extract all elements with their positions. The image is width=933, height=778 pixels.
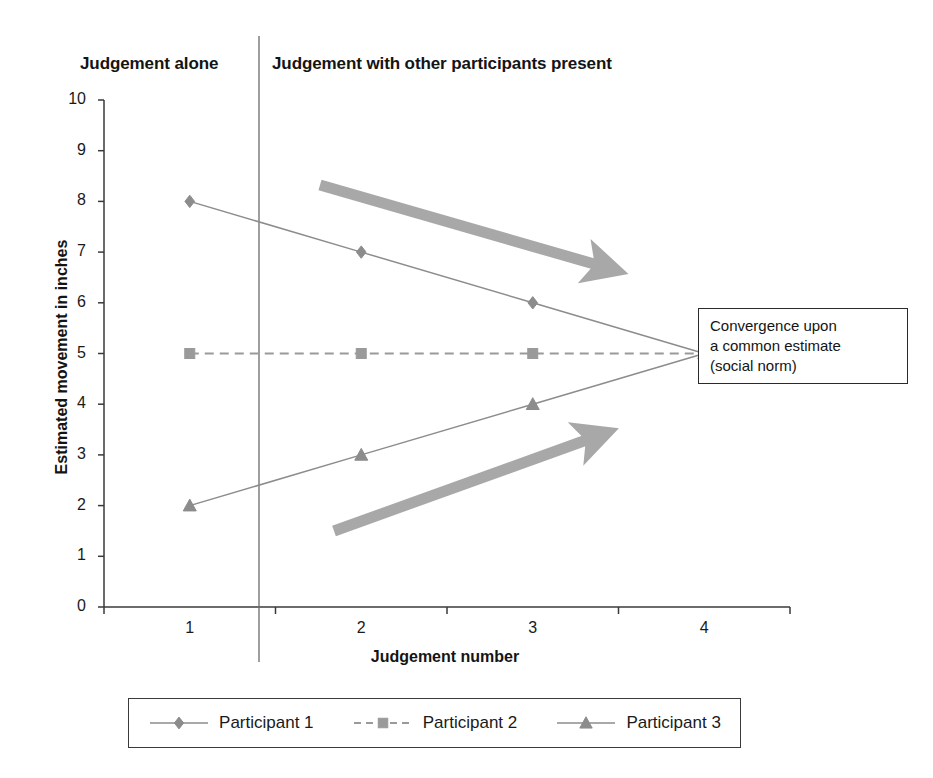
diamond-marker [148,713,210,733]
callout-line-1: Convergence upon [710,316,897,336]
legend-label-1: Participant 1 [219,713,314,733]
y-axis-tickmarks [98,100,104,607]
data-series-layer [183,195,711,511]
legend-item-1[interactable]: Participant 1 [148,713,314,733]
series-line [190,354,705,506]
data-point-2-3 [528,349,538,359]
data-point-1-2 [356,246,366,258]
data-point-1-1 [185,195,195,207]
series-participant-2 [185,349,710,359]
data-point-1-3 [528,297,538,309]
legend-label-3: Participant 3 [626,713,721,733]
callout-line-3: (social norm) [710,356,897,376]
legend-item-2[interactable]: Participant 2 [352,713,518,733]
x-axis-tickmarks [104,607,790,614]
legend-label-2: Participant 2 [423,713,518,733]
triangle-marker [555,713,617,733]
convergence-callout-box: Convergence upon a common estimate (soci… [698,308,908,384]
square-marker [352,713,414,733]
data-point-2-2 [356,349,366,359]
data-point-2-1 [185,349,195,359]
legend-item-3[interactable]: Participant 3 [555,713,721,733]
chart-figure: Judgement alone Judgement with other par… [0,0,933,778]
plot-area [0,0,933,778]
chart-legend: Participant 1Participant 2Participant 3 [128,698,741,748]
callout-line-2: a common estimate [710,336,897,356]
